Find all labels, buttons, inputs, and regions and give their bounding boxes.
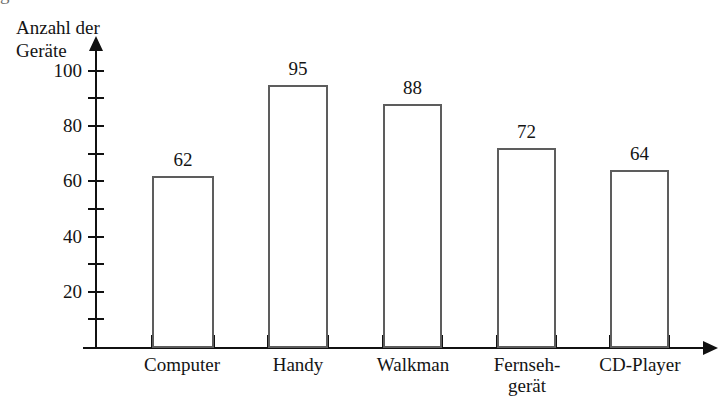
y-axis-minor-tick [88,263,104,265]
y-axis-tick-label: 40 [34,227,82,246]
y-axis-tick-label: 60 [34,171,82,190]
y-axis-tick [88,291,104,293]
y-axis-title: Anzahl der Geräte [16,16,100,62]
bar [152,176,214,348]
x-axis-category-label: CD-Player [570,354,710,375]
bar-value-label: 72 [497,122,556,141]
bar [383,104,442,348]
bar-value-label: 62 [152,150,214,169]
bar [497,148,556,348]
cropped-text-artifact: g [0,0,725,7]
bar-value-label: 95 [268,59,328,78]
y-axis-tick-label: 100 [34,61,82,80]
bar [268,85,328,348]
y-axis-tick [88,236,104,238]
y-axis-minor-tick [88,318,104,320]
y-axis-minor-tick [88,153,104,155]
y-axis-minor-tick [88,97,104,99]
y-axis-tick [88,125,104,127]
y-axis-line [95,48,97,349]
bar-chart: g Anzahl der Geräte 20406080100 62Comput… [0,0,725,413]
x-axis-arrow-icon [703,341,718,355]
y-axis-arrow-icon [89,36,103,51]
bar-value-label: 88 [383,78,442,97]
y-axis-tick [88,180,104,182]
bar-value-label: 64 [610,144,669,163]
cropped-text-glyphs: g [0,0,10,5]
y-axis-tick-label: 80 [34,116,82,135]
y-axis-minor-tick [88,208,104,210]
y-axis-tick [88,70,104,72]
bar [610,170,669,348]
y-axis-tick-label: 20 [34,282,82,301]
